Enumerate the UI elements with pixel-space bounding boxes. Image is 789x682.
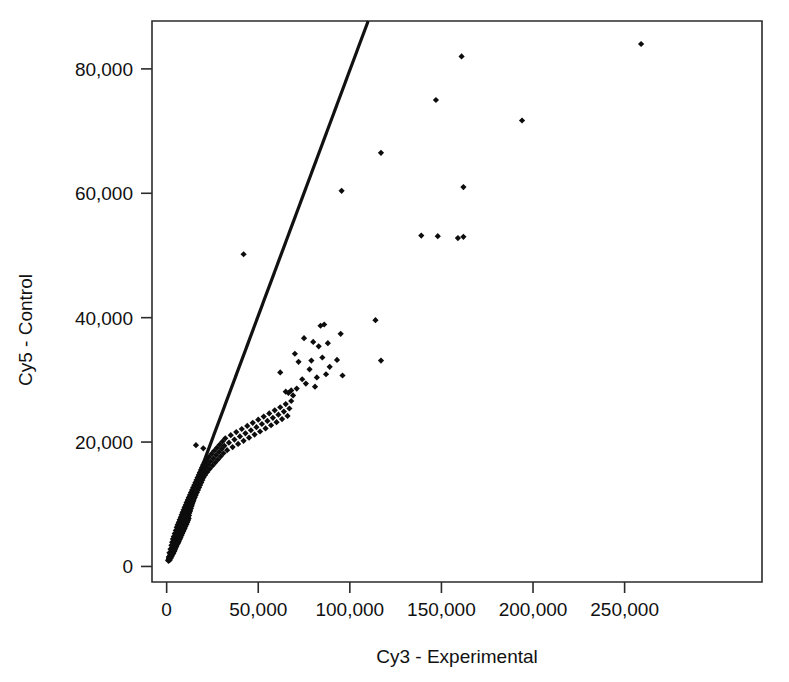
x-axis-title: Cy3 - Experimental: [376, 646, 538, 667]
y-tick-label: 20,000: [75, 432, 133, 453]
x-tick-label: 150,000: [407, 599, 476, 620]
y-tick-label: 60,000: [75, 183, 133, 204]
y-tick-label: 80,000: [75, 59, 133, 80]
x-tick-label: 100,000: [315, 599, 384, 620]
x-tick-label: 200,000: [499, 599, 568, 620]
y-axis-title: Cy5 - Control: [15, 274, 36, 386]
plot-canvas: 050,000100,000150,000200,000250,000 020,…: [0, 0, 789, 682]
x-tick-label: 0: [161, 599, 172, 620]
scatter-plot-figure: 050,000100,000150,000200,000250,000 020,…: [0, 0, 789, 682]
figure-background: [0, 0, 789, 682]
y-tick-label: 0: [122, 556, 133, 577]
x-tick-label: 50,000: [229, 599, 287, 620]
x-tick-label: 250,000: [590, 599, 659, 620]
y-tick-label: 40,000: [75, 308, 133, 329]
